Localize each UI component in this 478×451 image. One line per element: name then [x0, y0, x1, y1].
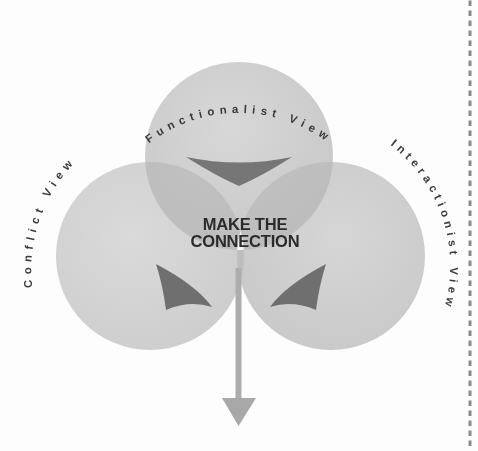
center-caption-line-2: CONNECTION	[191, 232, 300, 250]
venn-svg-canvas: Functionalist View Conflict View Interac…	[0, 0, 478, 451]
venn-diagram-figure: Functionalist View Conflict View Interac…	[0, 0, 478, 451]
center-caption-line-1: MAKE THE	[203, 215, 288, 233]
center-caption: MAKE THE CONNECTION	[191, 215, 300, 250]
arrow-head-down	[222, 398, 256, 426]
arrow-shaft	[236, 268, 242, 413]
